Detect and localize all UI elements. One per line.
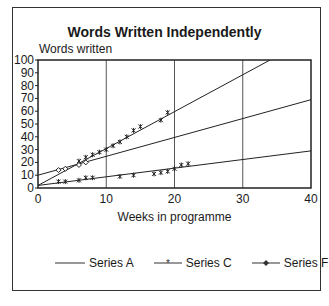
- data-point: [97, 150, 101, 155]
- diamond-marker-icon: [252, 258, 280, 268]
- y-tick-label: 90: [21, 66, 35, 80]
- legend-label: Series F: [284, 256, 329, 270]
- data-point: [118, 174, 122, 179]
- y-tick-label: 30: [21, 143, 35, 157]
- x-tick-label: 10: [100, 192, 114, 206]
- data-point: [159, 170, 163, 175]
- legend-label: Series C: [186, 256, 232, 270]
- data-point: [179, 162, 183, 167]
- data-point: [166, 169, 170, 174]
- y-tick-label: 10: [21, 168, 35, 182]
- x-tick-label: 30: [236, 192, 250, 206]
- x-tick-label: 0: [35, 192, 42, 206]
- y-tick-label: 60: [21, 104, 35, 118]
- data-point: [91, 175, 95, 180]
- svg-text:*: *: [166, 258, 170, 268]
- legend: Series A * Series C Series F: [55, 256, 328, 270]
- y-tick-label: 80: [21, 79, 35, 93]
- x-tick-label: 20: [168, 192, 182, 206]
- data-point: [56, 179, 60, 184]
- data-point: [132, 128, 136, 133]
- data-point: [152, 171, 156, 176]
- y-tick-label: 70: [21, 91, 35, 105]
- data-point: [56, 168, 61, 173]
- data-point: [186, 161, 190, 166]
- data-point: [138, 124, 142, 129]
- legend-item-series-f: Series F: [252, 256, 329, 270]
- data-point: [84, 175, 88, 180]
- y-tick-label: 0: [27, 181, 34, 195]
- y-tick-label: 20: [21, 155, 35, 169]
- legend-label: Series A: [89, 256, 134, 270]
- data-point: [132, 173, 136, 178]
- data-point: [166, 110, 170, 115]
- y-tick-label: 40: [21, 130, 35, 144]
- data-point: [84, 155, 88, 160]
- y-tick-label: 100: [14, 53, 34, 67]
- legend-item-series-c: * Series C: [154, 256, 232, 270]
- asterisk-marker-icon: *: [154, 258, 182, 268]
- x-tick-label: 40: [304, 192, 318, 206]
- line-icon: [55, 258, 85, 268]
- y-tick-label: 50: [21, 117, 35, 131]
- legend-item-series-a: Series A: [55, 256, 134, 270]
- trend-line: [38, 60, 270, 185]
